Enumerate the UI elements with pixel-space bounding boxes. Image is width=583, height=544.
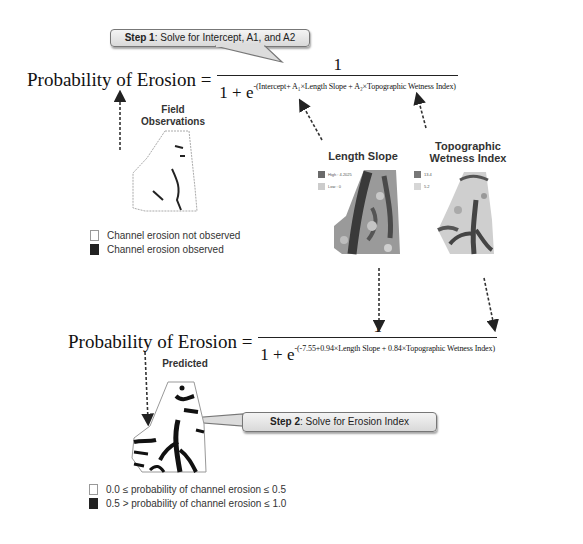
flow-arrows bbox=[0, 0, 583, 544]
legend-predicted: 0.0 ≤ probability of channel erosion ≤ 0… bbox=[89, 482, 286, 510]
step2-text: : Solve for Erosion Index bbox=[300, 416, 409, 427]
legend-item-high-probability: 0.5 > probability of channel erosion ≤ 1… bbox=[89, 496, 286, 510]
step2-label: Step 2 bbox=[270, 416, 300, 427]
arrow-slope-to-equation bbox=[302, 104, 322, 140]
arrow-twi-down bbox=[484, 278, 494, 326]
legend-item-low-probability: 0.0 ≤ probability of channel erosion ≤ 0… bbox=[89, 482, 286, 496]
predicted-title: Predicted bbox=[155, 358, 215, 370]
arrow-twi-to-equation bbox=[418, 98, 426, 128]
black-swatch-icon bbox=[89, 498, 98, 509]
white-swatch-icon bbox=[89, 484, 98, 495]
predicted-map bbox=[130, 380, 220, 475]
step2-callout: Step 2: Solve for Erosion Index bbox=[242, 412, 437, 432]
